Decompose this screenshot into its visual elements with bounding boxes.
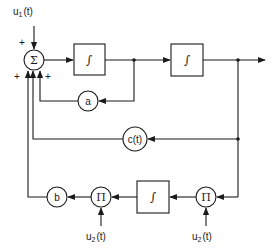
sign-top: + xyxy=(19,37,25,48)
sigma-symbol: Σ xyxy=(30,54,38,67)
integral-symbol-second: ∫ xyxy=(184,53,191,67)
u2-left-label: u2(t) xyxy=(86,231,106,243)
integral-symbol-bottom: ∫ xyxy=(150,190,157,204)
pi-symbol-left: Π xyxy=(96,191,106,204)
gain-c-label: c(t) xyxy=(128,134,142,145)
u1-label: u1(t) xyxy=(13,6,33,18)
feedback-line-b-return xyxy=(28,71,47,197)
integral-symbol-first: ∫ xyxy=(86,53,93,67)
gain-a-label: a xyxy=(85,96,91,107)
pi-symbol-right: Π xyxy=(201,191,211,204)
u2-right-label: u2(t) xyxy=(192,231,212,243)
sign-left: + xyxy=(14,71,20,82)
sign-right: + xyxy=(45,71,51,82)
gain-b-label: b xyxy=(54,192,60,203)
block-diagram: u1(t) Σ + + + ∫ ∫ ∫ a c(t) b Π Π u2(t) u… xyxy=(0,0,277,251)
